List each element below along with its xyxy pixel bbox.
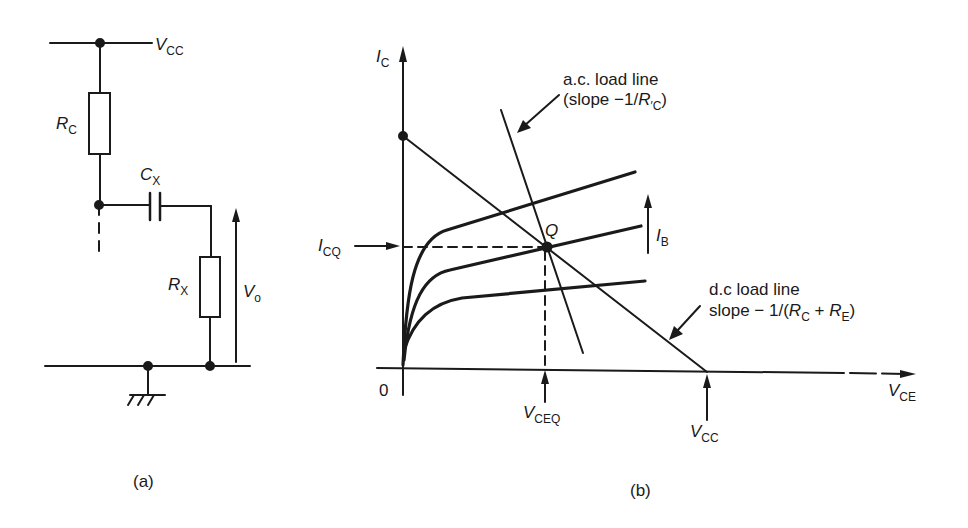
ground-icon (128, 366, 165, 405)
figure-canvas (0, 0, 968, 528)
text: E (841, 310, 849, 324)
label-main: V (690, 422, 701, 441)
dc-intercept-point (399, 132, 407, 140)
label-cx: CX (140, 166, 160, 183)
label-vcc-a: VCC (155, 36, 184, 53)
text: R (829, 301, 841, 320)
x-axis-arrow-icon (900, 370, 916, 378)
label-vcc-b: VCC (690, 423, 719, 440)
vceq-arrowhead-icon (541, 370, 549, 384)
vo-arrow-icon (232, 208, 240, 362)
vcc-arrowhead-icon (703, 374, 711, 388)
label-main: V (888, 381, 899, 400)
icq-arrowhead-icon (386, 242, 400, 250)
label-sub: C (381, 56, 390, 70)
y-axis-arrow-icon (399, 46, 407, 62)
label-rc: RC (56, 115, 77, 132)
ib-arrowhead-icon (644, 194, 652, 208)
x-axis-dashed (850, 373, 905, 374)
label-sub: B (661, 235, 669, 249)
text: ) (661, 90, 667, 109)
curve-ib-low (404, 281, 645, 350)
caption-b: (b) (630, 482, 651, 499)
label-sub: CC (166, 44, 183, 58)
label-sub: CC (701, 431, 718, 445)
resistor-rc (89, 93, 110, 154)
text: slope − 1/( (709, 301, 789, 320)
label-dc-load-line: d.c load line (709, 281, 800, 298)
label-vo: Vo (243, 283, 261, 300)
x-axis (377, 368, 844, 373)
text: (slope −1/ (563, 90, 638, 109)
label-ac-load-line: a.c. load line (563, 71, 658, 88)
label-main: V (243, 282, 254, 301)
label-sub: X (152, 174, 160, 188)
text: R (638, 90, 650, 109)
ac-leader-icon (524, 95, 559, 126)
ib-curves (403, 172, 645, 365)
label-ic-axis: IC (376, 48, 389, 65)
label-main: V (155, 35, 166, 54)
resistor-rx (200, 257, 220, 317)
label-sub: X (180, 284, 188, 298)
text: ′C (650, 99, 661, 113)
label-icq: ICQ (318, 237, 341, 254)
label-main: R (168, 275, 180, 294)
label-sub: CE (899, 390, 916, 404)
label-sub: CEQ (534, 412, 560, 426)
label-ac-slope: (slope −1/R′C) (563, 91, 667, 108)
text: C (801, 310, 810, 324)
label-q-point: Q (545, 222, 558, 239)
label-sub: o (254, 291, 261, 305)
text: ) (849, 301, 855, 320)
label-sub: C (68, 123, 77, 137)
label-dc-slope: slope − 1/(RC + RE) (709, 302, 855, 319)
label-main: R (56, 114, 68, 133)
curve-ib-high (403, 172, 635, 365)
label-origin: 0 (379, 382, 388, 399)
label-main: V (523, 403, 534, 422)
dc-load-line (403, 136, 707, 372)
caption-a: (a) (133, 473, 154, 490)
label-vce-axis: VCE (888, 382, 916, 399)
label-main: C (140, 165, 152, 184)
text: + (810, 301, 829, 320)
text: R (789, 301, 801, 320)
rx-junction (206, 362, 214, 370)
dc-leader-icon (677, 306, 700, 331)
circuit-a (45, 39, 250, 405)
label-rx: RX (168, 276, 188, 293)
label-vceq: VCEQ (523, 404, 560, 421)
label-sub: CQ (323, 245, 341, 259)
label-ib: IB (656, 227, 669, 244)
ac-load-line (501, 110, 583, 353)
